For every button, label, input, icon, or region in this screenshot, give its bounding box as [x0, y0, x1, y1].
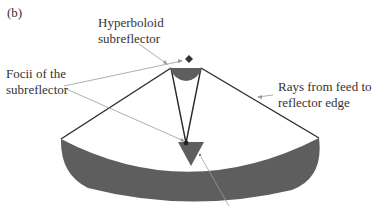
label-line: subreflector	[98, 31, 164, 47]
panel-label: (b)	[7, 5, 22, 21]
arrowhead-rays	[257, 95, 262, 99]
label-line: Hyperboloid	[98, 15, 164, 31]
label-hyperboloid-subreflector: Hyperboloid subreflector	[98, 15, 164, 47]
leader-focii-upper	[64, 61, 182, 86]
label-line: subreflector	[6, 82, 68, 98]
arrowhead-focii-lower	[180, 138, 185, 142]
label-rays-feed-to-edge: Rays from feed to reflector edge	[278, 79, 372, 111]
feed-phase-dot	[199, 154, 201, 156]
arrowhead-focii-upper	[178, 59, 183, 63]
label-line: Focii of the	[6, 66, 68, 82]
label-line: reflector edge	[278, 95, 372, 111]
hyperboloid-subreflector	[170, 68, 202, 81]
leader-hyperboloid	[139, 44, 167, 64]
label-focii-of-subreflector: Focii of the subreflector	[6, 66, 68, 98]
label-line: Rays from feed to	[278, 79, 372, 95]
upper-focus-marker	[185, 55, 193, 63]
leader-focii-lower	[64, 88, 184, 141]
